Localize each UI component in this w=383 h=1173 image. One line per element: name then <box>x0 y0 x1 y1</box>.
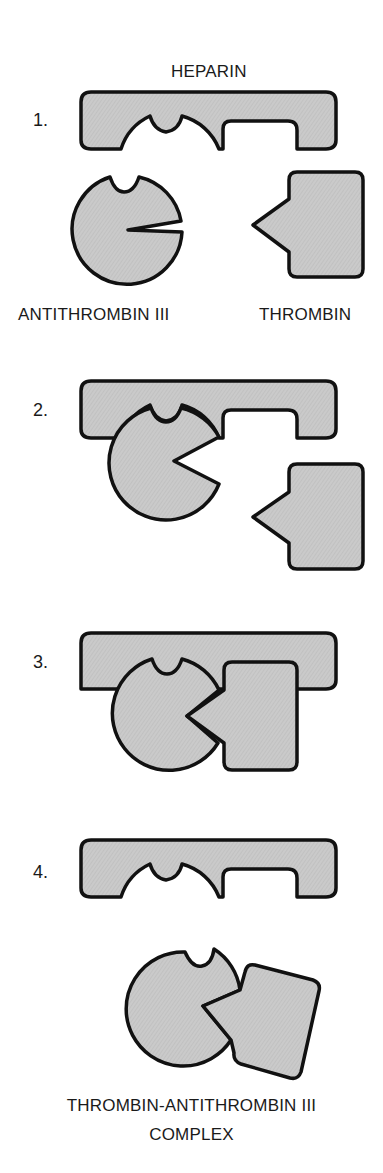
antithrombin-shape <box>72 177 182 284</box>
thrombin-label: THROMBIN <box>259 305 351 325</box>
step-1 <box>72 92 363 284</box>
step-3-number: 3. <box>33 652 48 673</box>
mechanism-diagram <box>0 0 383 1173</box>
step-4 <box>81 840 336 1078</box>
antithrombin-label: ANTITHROMBIN III <box>18 305 169 325</box>
thrombin-shape <box>253 172 363 277</box>
complex-label-line2: COMPLEX <box>0 1125 383 1145</box>
step-2-number: 2. <box>33 400 48 421</box>
heparin-shape <box>81 840 336 897</box>
complex-label-line1: THROMBIN-ANTITHROMBIN III <box>0 1096 383 1116</box>
heparin-shape <box>81 92 336 149</box>
heparin-label: HEPARIN <box>171 62 247 82</box>
step-3 <box>81 633 336 770</box>
step-4-number: 4. <box>33 862 48 883</box>
antithrombin-shape <box>109 408 219 520</box>
step-2 <box>81 381 363 569</box>
thrombin-shape <box>253 464 363 569</box>
step-1-number: 1. <box>33 110 48 131</box>
